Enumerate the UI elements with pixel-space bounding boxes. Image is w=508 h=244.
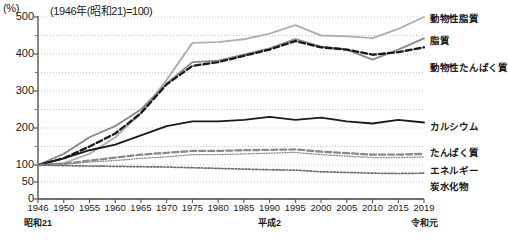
series-line <box>38 38 424 165</box>
series-line <box>38 165 424 174</box>
